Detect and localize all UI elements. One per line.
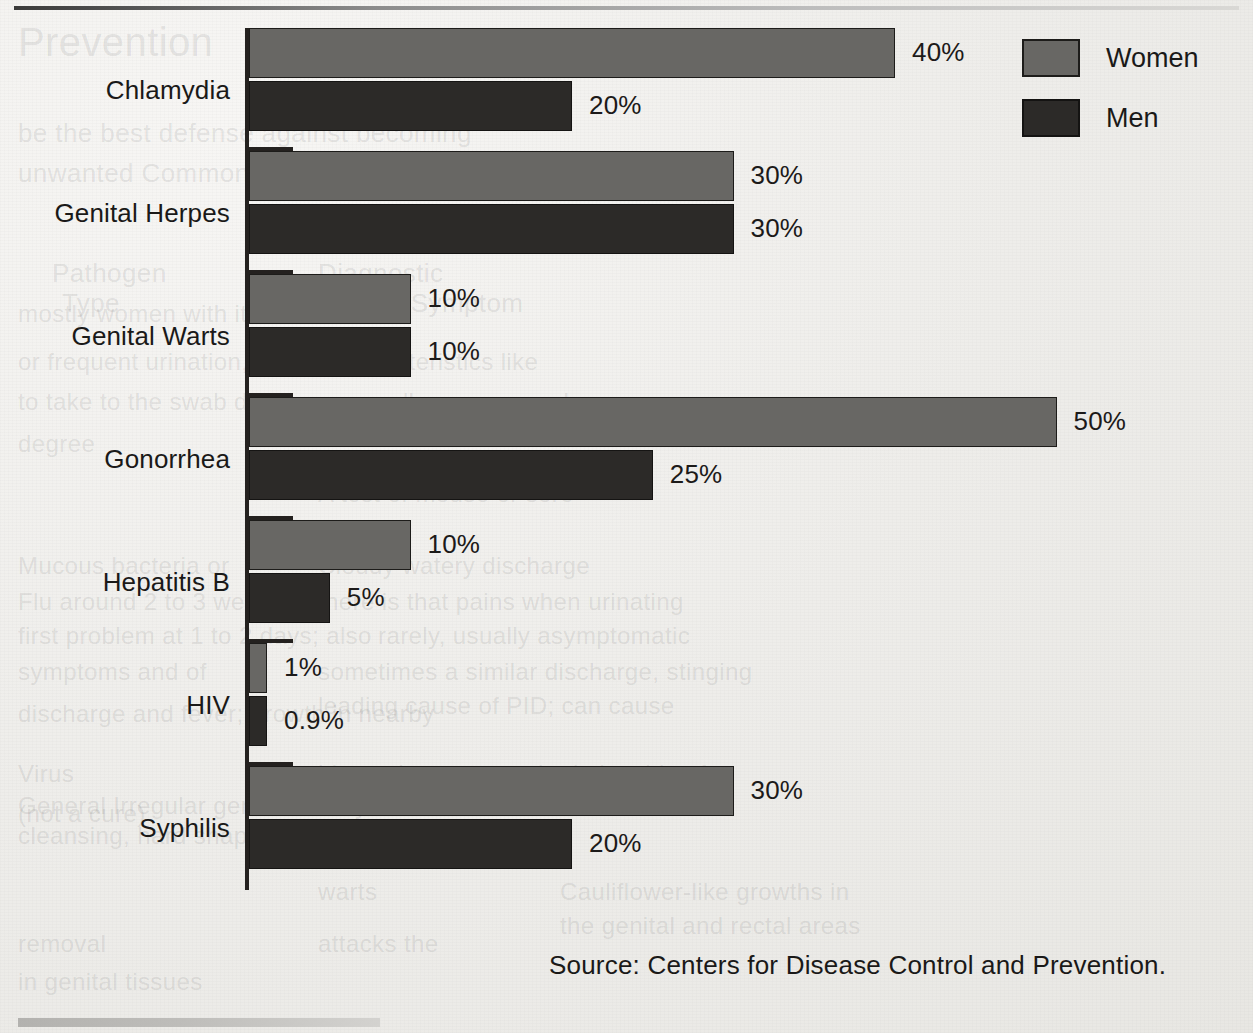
bar-hepatitis-b-women bbox=[249, 520, 411, 570]
bar-hiv-women bbox=[249, 643, 267, 693]
bar-gonorrhea-men bbox=[249, 450, 653, 500]
bar-hepatitis-b-men bbox=[249, 573, 330, 623]
chart-legend: Women Men bbox=[1022, 36, 1199, 156]
bar-genital-herpes-women bbox=[249, 151, 734, 201]
category-label-hepatitis-b: Hepatitis B bbox=[103, 567, 230, 598]
bar-value-label: 0.9% bbox=[284, 705, 344, 736]
bar-value-label: 25% bbox=[670, 459, 723, 490]
legend-swatch-women-icon bbox=[1022, 39, 1080, 77]
bar-chlamydia-women bbox=[249, 28, 895, 78]
category-label-syphilis: Syphilis bbox=[139, 813, 230, 844]
bar-genital-herpes-men bbox=[249, 204, 734, 254]
std-prevalence-bar-chart: 40%20%30%30%10%10%50%25%10%5%1%0.9%30%20… bbox=[0, 0, 1253, 1033]
bar-value-label: 20% bbox=[589, 90, 642, 121]
bar-value-label: 30% bbox=[751, 775, 804, 806]
category-label-hiv: HIV bbox=[186, 690, 230, 721]
bar-value-label: 20% bbox=[589, 828, 642, 859]
bar-syphilis-women bbox=[249, 766, 734, 816]
bar-value-label: 10% bbox=[428, 529, 481, 560]
category-label-gonorrhea: Gonorrhea bbox=[104, 444, 230, 475]
bar-gonorrhea-women bbox=[249, 397, 1057, 447]
bar-value-label: 10% bbox=[428, 336, 481, 367]
category-label-chlamydia: Chlamydia bbox=[106, 75, 230, 106]
bar-value-label: 1% bbox=[284, 652, 322, 683]
bar-value-label: 30% bbox=[751, 213, 804, 244]
bar-genital-warts-men bbox=[249, 327, 411, 377]
legend-label-women: Women bbox=[1106, 43, 1199, 74]
scanned-page: Preventionbe the best defense against be… bbox=[0, 0, 1253, 1033]
bar-value-label: 5% bbox=[347, 582, 385, 613]
bar-value-label: 40% bbox=[912, 37, 965, 68]
legend-item-women[interactable]: Women bbox=[1022, 36, 1199, 80]
bar-value-label: 30% bbox=[751, 160, 804, 191]
category-label-genital-herpes: Genital Herpes bbox=[54, 198, 230, 229]
category-label-genital-warts: Genital Warts bbox=[72, 321, 230, 352]
bar-genital-warts-women bbox=[249, 274, 411, 324]
bar-hiv-men bbox=[249, 696, 267, 746]
bar-chlamydia-men bbox=[249, 81, 572, 131]
bar-value-label: 10% bbox=[428, 283, 481, 314]
chart-source-note: Source: Centers for Disease Control and … bbox=[549, 950, 1166, 981]
bar-syphilis-men bbox=[249, 819, 572, 869]
bar-value-label: 50% bbox=[1074, 406, 1127, 437]
legend-swatch-men-icon bbox=[1022, 99, 1080, 137]
legend-label-men: Men bbox=[1106, 103, 1159, 134]
legend-item-men[interactable]: Men bbox=[1022, 96, 1199, 140]
